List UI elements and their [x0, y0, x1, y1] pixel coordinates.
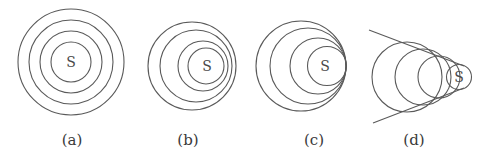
source-label: S: [66, 54, 76, 70]
panel-caption: (b): [177, 131, 198, 149]
panel-c: S(c): [256, 21, 347, 149]
wavefront-circle: [395, 49, 451, 105]
panel-d: S(d): [369, 30, 472, 149]
panel-caption: (d): [403, 131, 424, 149]
shock-cone-line: [369, 30, 464, 66]
wavefront-circle: [290, 38, 346, 94]
panel-b: S(b): [148, 22, 236, 149]
wavefront-circle: [160, 30, 232, 102]
wavefront-circle: [148, 22, 236, 110]
panel-caption: (a): [62, 131, 83, 149]
source-label: S: [320, 58, 330, 74]
panel-caption: (c): [304, 131, 324, 149]
wavefront-diagram: S(a)S(b)S(c)S(d): [0, 0, 490, 159]
source-label: S: [454, 69, 464, 85]
panel-a: S(a): [18, 9, 124, 149]
wavefront-circle: [372, 42, 442, 112]
source-label: S: [202, 58, 212, 74]
